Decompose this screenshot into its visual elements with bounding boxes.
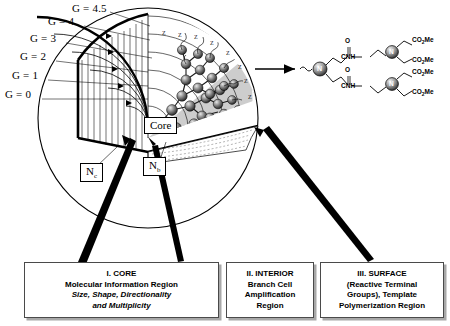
caption-interior-line-1: II. INTERIOR — [246, 269, 293, 280]
ester-label-1: CO2Me — [412, 36, 434, 45]
carbonyl-o-upper: O — [345, 37, 350, 44]
caption-core-line-2: Molecular Information Region — [65, 280, 178, 291]
diagram-root: G = 0 G = 1 G = 2 G = 3 G = 4 G = 4.5 Co… — [0, 0, 450, 326]
generation-label-g2: G = 2 — [20, 50, 46, 62]
caption-box-surface: III. SURFACE (Reactive Terminal Groups),… — [320, 262, 444, 318]
terminal-group-z-5: Z — [238, 64, 242, 70]
nb-symbol: N — [149, 159, 157, 171]
generation-label-g0: G = 0 — [5, 88, 31, 100]
ester-suffix: Me — [425, 88, 434, 95]
nc-subscript: c — [94, 172, 97, 180]
caption-surface-line-2: (Reactive Terminal — [347, 280, 418, 291]
terminal-group-z-1: Z — [178, 32, 182, 38]
nitrogen-symbol-core: N — [317, 65, 322, 72]
ester-label-3: CO2Me — [412, 68, 434, 77]
ester-suffix: Me — [425, 36, 434, 43]
caption-surface-line-1: III. SURFACE — [357, 269, 406, 280]
nc-label-box: Nc — [80, 163, 103, 182]
terminal-group-z-3: Z — [210, 40, 214, 46]
ester-text: CO — [412, 68, 422, 75]
terminal-group-z-7: Z — [248, 94, 252, 100]
nc-symbol: N — [86, 165, 94, 177]
caption-surface-line-3: Groups), Template — [347, 290, 417, 301]
generation-label-g45: G = 4.5 — [72, 2, 107, 14]
generation-label-g4: G = 4 — [48, 15, 74, 27]
terminal-group-z-6: Z — [244, 78, 248, 84]
caption-box-interior: II. INTERIOR Branch Cell Amplification R… — [226, 262, 314, 318]
caption-interior-line-2: Branch Cell — [248, 280, 292, 291]
amide-label-lower: CNH — [341, 82, 355, 89]
caption-core-line-1: I. CORE — [107, 269, 137, 280]
terminal-group-z-8: Z — [162, 30, 166, 36]
nitrogen-symbol-lower: N — [389, 80, 394, 87]
ester-suffix: Me — [425, 68, 434, 75]
ester-suffix: Me — [425, 56, 434, 63]
ester-text: CO — [412, 88, 422, 95]
amide-label-upper: CNH — [341, 53, 355, 60]
terminal-group-z-4: Z — [226, 50, 230, 56]
caption-core-line-3: Size, Shape, Directionality — [72, 290, 172, 301]
nitrogen-symbol-upper: N — [389, 48, 394, 55]
terminal-group-z-2: Z — [194, 34, 198, 40]
carbonyl-o-lower: O — [345, 66, 350, 73]
generation-label-g1: G = 1 — [12, 69, 38, 81]
wedge-outer-arc — [78, 14, 148, 60]
caption-box-core: I. CORE Molecular Information Region Siz… — [24, 262, 219, 318]
caption-surface-line-4: Polymerization Region — [339, 301, 425, 312]
nb-label-box: Nb — [143, 157, 166, 176]
caption-interior-line-3: Amplification — [245, 290, 296, 301]
caption-core-line-4: and Multiplicity — [92, 301, 150, 312]
nb-subscript: b — [157, 166, 161, 174]
ester-text: CO — [412, 56, 422, 63]
generation-label-g3: G = 3 — [30, 32, 56, 44]
ester-text: CO — [412, 36, 422, 43]
caption-interior-line-4: Region — [256, 301, 283, 312]
polymer-chain-squiggle — [300, 67, 312, 71]
ester-label-2: CO2Me — [412, 56, 434, 65]
ester-label-4: CO2Me — [412, 88, 434, 97]
core-label-box: Core — [144, 117, 177, 134]
arrow-to-surface — [263, 126, 374, 262]
